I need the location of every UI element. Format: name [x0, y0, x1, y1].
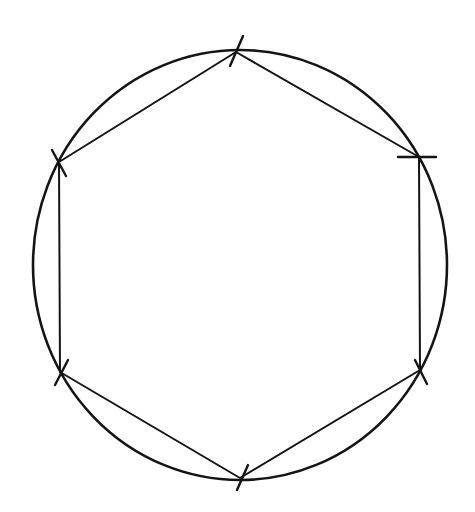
circumscribed-circle [33, 50, 447, 480]
inscribed-hexagon [59, 52, 420, 478]
hexagon-in-circle-diagram [0, 0, 475, 512]
